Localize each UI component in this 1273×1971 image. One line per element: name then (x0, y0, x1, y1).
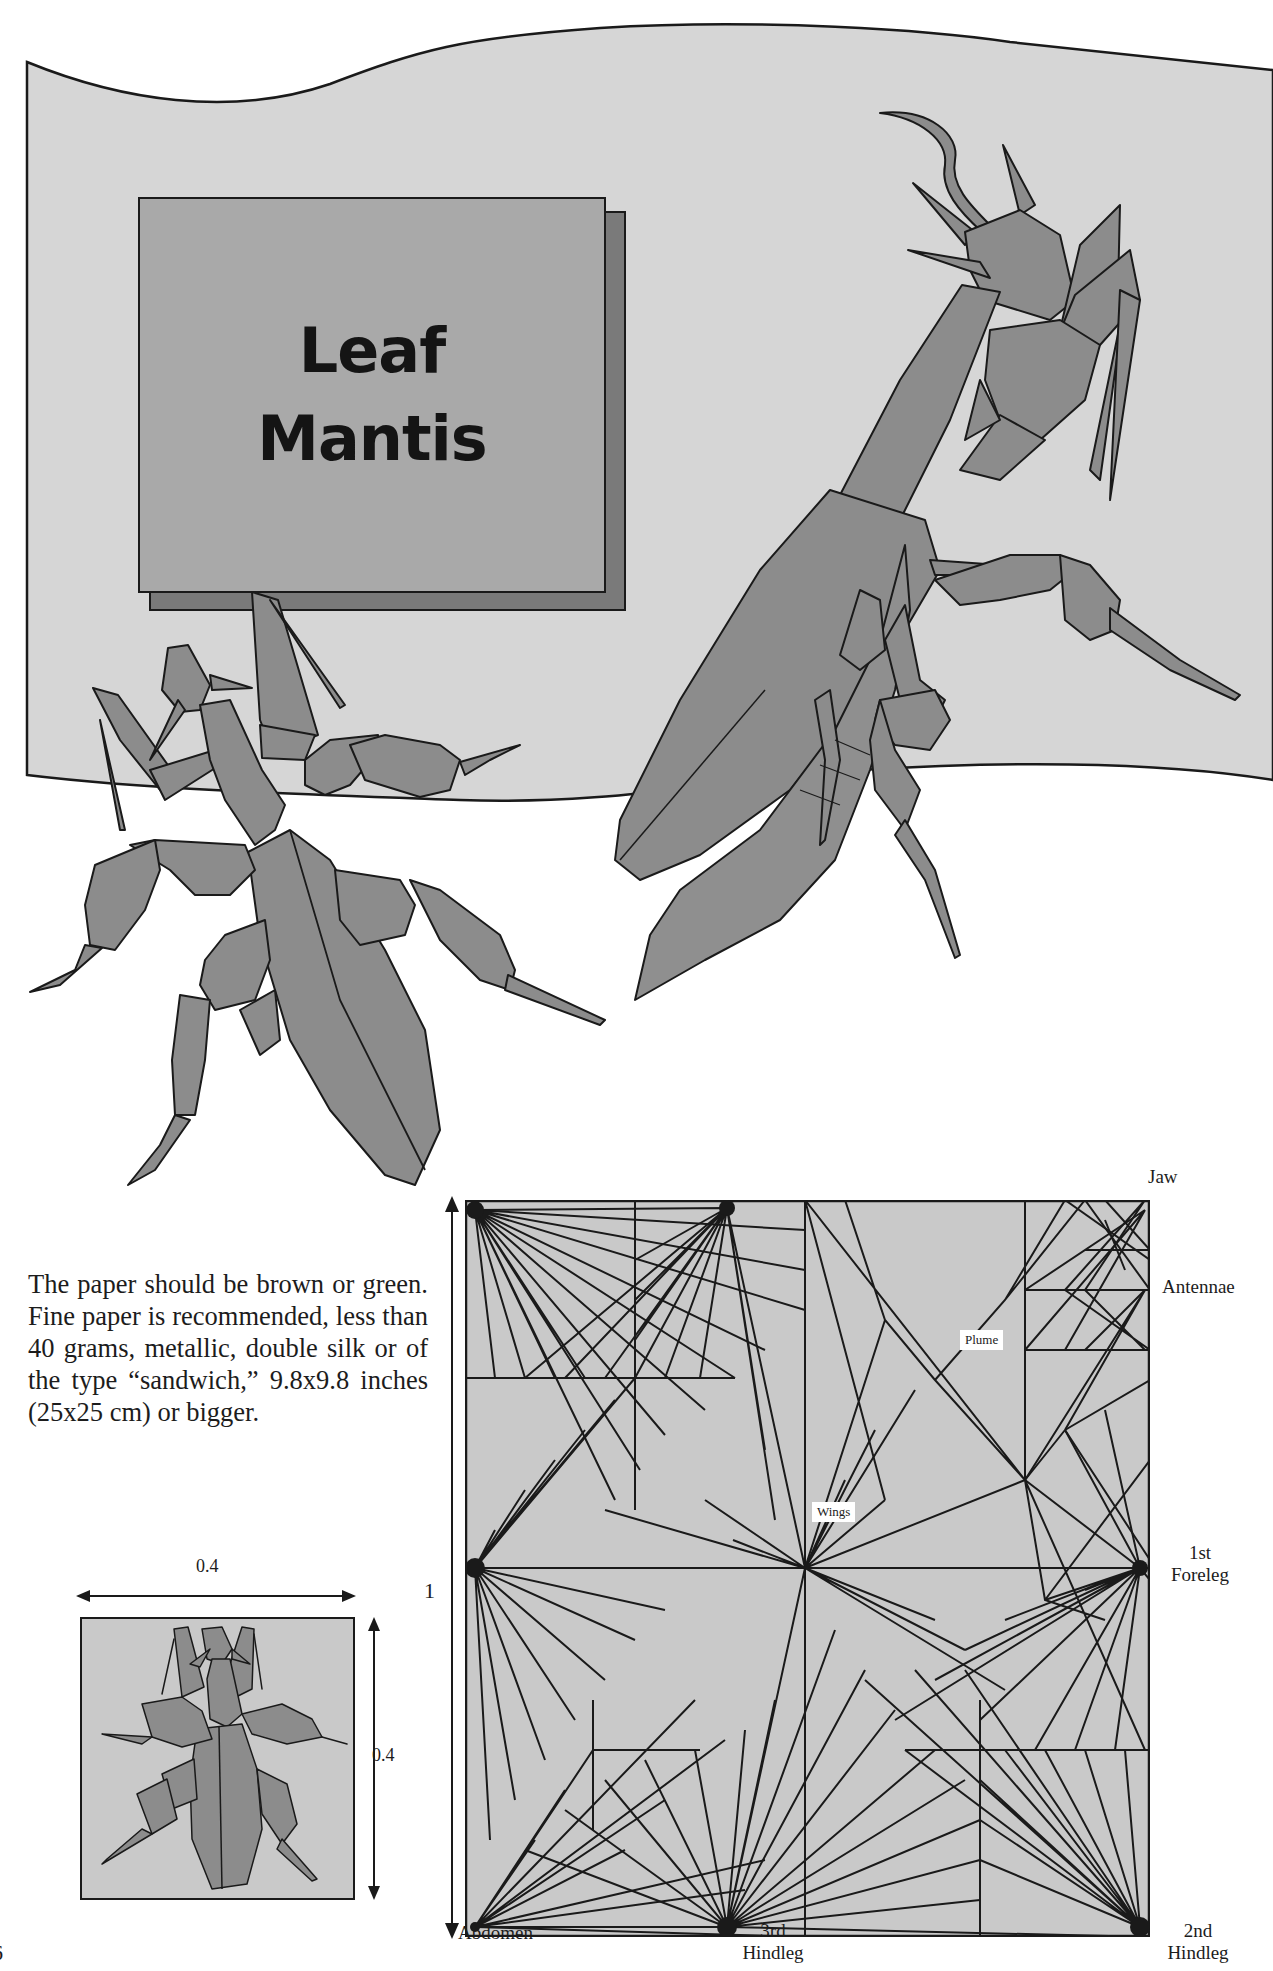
crease-pattern-svg (465, 1200, 1150, 1937)
flap-label-foreleg-1-line2: Foreleg (1160, 1564, 1240, 1586)
mantis-thumbnail-svg (82, 1619, 353, 1898)
page-number-fragment: 6 (0, 1940, 3, 1966)
hero-illustration-svg (0, 0, 1273, 1190)
double-arrow-horizontal-icon (76, 1584, 356, 1608)
flap-label-hindleg-2: 2nd Hindleg (1158, 1920, 1238, 1964)
crease-pattern: Plume Wings (465, 1200, 1150, 1937)
flap-label-abdomen: Abdomen (458, 1922, 533, 1944)
double-arrow-vertical-icon (440, 1196, 464, 1939)
flap-label-foreleg-1-line1: 1st (1160, 1542, 1240, 1564)
wings-tag: Wings (812, 1502, 855, 1522)
thumbnail-frame (80, 1617, 355, 1900)
flap-label-foreleg-1: 1st Foreleg (1160, 1542, 1240, 1586)
flap-label-hindleg-3-line2: Hindleg (728, 1942, 818, 1964)
paper-recommendation-text: The paper should be brown or green. Fine… (28, 1268, 428, 1428)
title-line-1: Leaf (299, 307, 445, 395)
crease-pattern-side-dimension (440, 1196, 464, 1939)
flap-label-hindleg-2-line1: 2nd (1158, 1920, 1238, 1942)
flap-label-hindleg-3-line1: 3rd (728, 1920, 818, 1942)
flap-label-jaw: Jaw (1148, 1166, 1178, 1188)
thumbnail-height-label: 0.4 (372, 1745, 395, 1766)
flap-label-antennae: Antennae (1162, 1276, 1235, 1298)
thumbnail-dimension-width (76, 1584, 356, 1608)
thumbnail-width-label: 0.4 (196, 1556, 219, 1577)
crease-pattern-side-label: 1 (424, 1578, 435, 1604)
plume-tag: Plume (960, 1330, 1003, 1350)
title-card-label: Leaf Mantis (139, 198, 605, 592)
flap-label-hindleg-3: 3rd Hindleg (728, 1920, 818, 1964)
title-line-2: Mantis (257, 395, 486, 483)
hero-illustration: Leaf Mantis (0, 0, 1273, 1190)
flap-label-hindleg-2-line2: Hindleg (1158, 1942, 1238, 1964)
